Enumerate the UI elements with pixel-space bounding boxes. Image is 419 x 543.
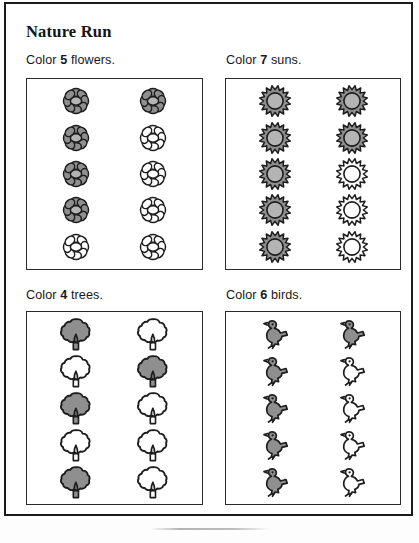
icon-grid-birds — [226, 312, 400, 504]
instruction-birds: Color 6 birds. — [226, 288, 302, 302]
exercise-box-suns — [225, 78, 401, 270]
sun-icon-uncolored[interactable] — [313, 192, 390, 228]
bird-icon-colored[interactable] — [236, 463, 313, 500]
bird-icon-colored[interactable] — [236, 426, 313, 463]
tree-icon-uncolored[interactable] — [115, 316, 193, 353]
tree-icon-uncolored[interactable] — [37, 353, 115, 390]
bird-icon-colored[interactable] — [313, 316, 390, 353]
instruction-suns-prefix: Color — [226, 53, 260, 67]
instruction-trees: Color 4 trees. — [26, 288, 103, 302]
flower-icon-uncolored[interactable] — [115, 119, 193, 155]
sun-icon-colored[interactable] — [236, 229, 313, 265]
instruction-suns-suffix: suns. — [267, 53, 301, 67]
bird-icon-colored[interactable] — [236, 390, 313, 427]
icon-grid-flowers — [27, 79, 202, 269]
icon-grid-trees — [27, 312, 202, 504]
exercise-box-flowers — [26, 78, 203, 270]
instruction-flowers-prefix: Color — [26, 53, 60, 67]
tree-icon-colored[interactable] — [37, 316, 115, 353]
sun-icon-uncolored[interactable] — [313, 229, 390, 265]
flower-icon-uncolored[interactable] — [115, 156, 193, 192]
instruction-trees-suffix: trees. — [67, 288, 103, 302]
bird-icon-colored[interactable] — [236, 353, 313, 390]
instruction-suns: Color 7 suns. — [226, 53, 302, 67]
icon-grid-suns — [226, 79, 400, 269]
sun-icon-colored[interactable] — [313, 119, 390, 155]
exercise-box-trees — [26, 311, 203, 505]
flower-icon-colored[interactable] — [37, 192, 115, 228]
worksheet-page: Nature Run Color 5 flowers. Color 7 suns… — [0, 0, 419, 543]
page-title: Nature Run — [26, 22, 112, 42]
tree-icon-uncolored[interactable] — [115, 390, 193, 427]
sun-icon-colored[interactable] — [236, 83, 313, 119]
sun-icon-uncolored[interactable] — [313, 156, 390, 192]
tree-icon-colored[interactable] — [115, 353, 193, 390]
sun-icon-colored[interactable] — [313, 83, 390, 119]
tree-icon-uncolored[interactable] — [115, 426, 193, 463]
bird-icon-uncolored[interactable] — [313, 463, 390, 500]
bird-icon-uncolored[interactable] — [313, 353, 390, 390]
flower-icon-colored[interactable] — [37, 83, 115, 119]
sun-icon-colored[interactable] — [236, 156, 313, 192]
instruction-trees-prefix: Color — [26, 288, 60, 302]
sun-icon-colored[interactable] — [236, 192, 313, 228]
bird-icon-colored[interactable] — [236, 316, 313, 353]
bird-icon-uncolored[interactable] — [313, 390, 390, 427]
flower-icon-uncolored[interactable] — [37, 229, 115, 265]
flower-icon-uncolored[interactable] — [115, 192, 193, 228]
instruction-birds-suffix: birds. — [267, 288, 302, 302]
tree-icon-uncolored[interactable] — [37, 426, 115, 463]
sun-icon-colored[interactable] — [236, 119, 313, 155]
tree-icon-uncolored[interactable] — [115, 463, 193, 500]
flower-icon-colored[interactable] — [37, 156, 115, 192]
flower-icon-uncolored[interactable] — [115, 229, 193, 265]
bird-icon-uncolored[interactable] — [313, 426, 390, 463]
instruction-flowers: Color 5 flowers. — [26, 53, 115, 67]
tree-icon-colored[interactable] — [37, 390, 115, 427]
scan-artifact-line — [150, 528, 270, 530]
instruction-birds-prefix: Color — [226, 288, 260, 302]
flower-icon-colored[interactable] — [37, 119, 115, 155]
instruction-flowers-suffix: flowers. — [67, 53, 115, 67]
flower-icon-colored[interactable] — [115, 83, 193, 119]
tree-icon-colored[interactable] — [37, 463, 115, 500]
exercise-box-birds — [225, 311, 401, 505]
